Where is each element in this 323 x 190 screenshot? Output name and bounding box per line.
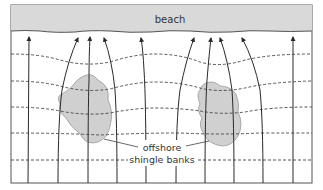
wave-refraction-diagram: beach offshore shingle banks xyxy=(0,0,323,190)
banks-label-line2: shingle banks xyxy=(129,154,195,165)
banks-label-line1: offshore xyxy=(143,142,182,153)
beach-label: beach xyxy=(155,14,185,25)
